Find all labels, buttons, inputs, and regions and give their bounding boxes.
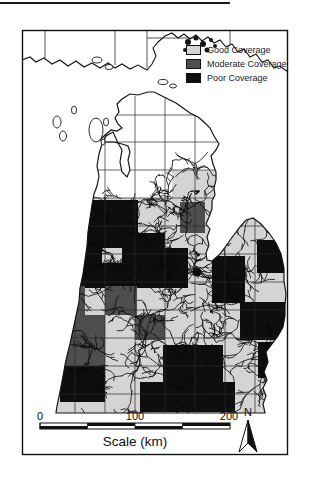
legend-row-poor: Poor Coverage xyxy=(186,74,287,82)
north-arrow-label: N xyxy=(244,406,252,418)
scale-tick-200: 200 xyxy=(220,410,238,422)
poor-coverage-swatch xyxy=(186,73,201,83)
north-arrow xyxy=(239,420,248,452)
island xyxy=(105,65,113,70)
island xyxy=(89,118,103,142)
island xyxy=(104,118,109,126)
poor-coverage-label: Poor Coverage xyxy=(207,74,268,83)
county-moderate xyxy=(105,286,137,315)
county-poor xyxy=(60,366,105,402)
island xyxy=(101,139,105,145)
county-poor xyxy=(140,382,235,412)
island xyxy=(158,80,168,85)
scale-tick-0: 0 xyxy=(37,410,43,422)
figure-page: Good Coverage Moderate Coverage Poor Cov… xyxy=(0,0,313,483)
county-moderate xyxy=(50,315,105,340)
good-coverage-label: Good Coverage xyxy=(207,46,271,55)
scale-tick-100: 100 xyxy=(126,410,144,422)
county-poor xyxy=(163,345,223,382)
island xyxy=(53,116,61,128)
legend-row-moderate: Moderate Coverage xyxy=(186,60,287,68)
good-coverage-swatch xyxy=(186,45,201,55)
moderate-coverage-swatch xyxy=(186,59,201,69)
island xyxy=(92,57,102,63)
legend: Good Coverage Moderate Coverage Poor Cov… xyxy=(186,46,287,88)
island xyxy=(72,106,77,114)
island xyxy=(170,84,177,88)
county-poor xyxy=(58,248,102,264)
scale-caption: Scale (km) xyxy=(103,434,168,449)
island xyxy=(60,131,67,141)
legend-row-good: Good Coverage xyxy=(186,46,287,54)
county-poor xyxy=(257,240,287,273)
moderate-coverage-label: Moderate Coverage xyxy=(207,60,287,69)
